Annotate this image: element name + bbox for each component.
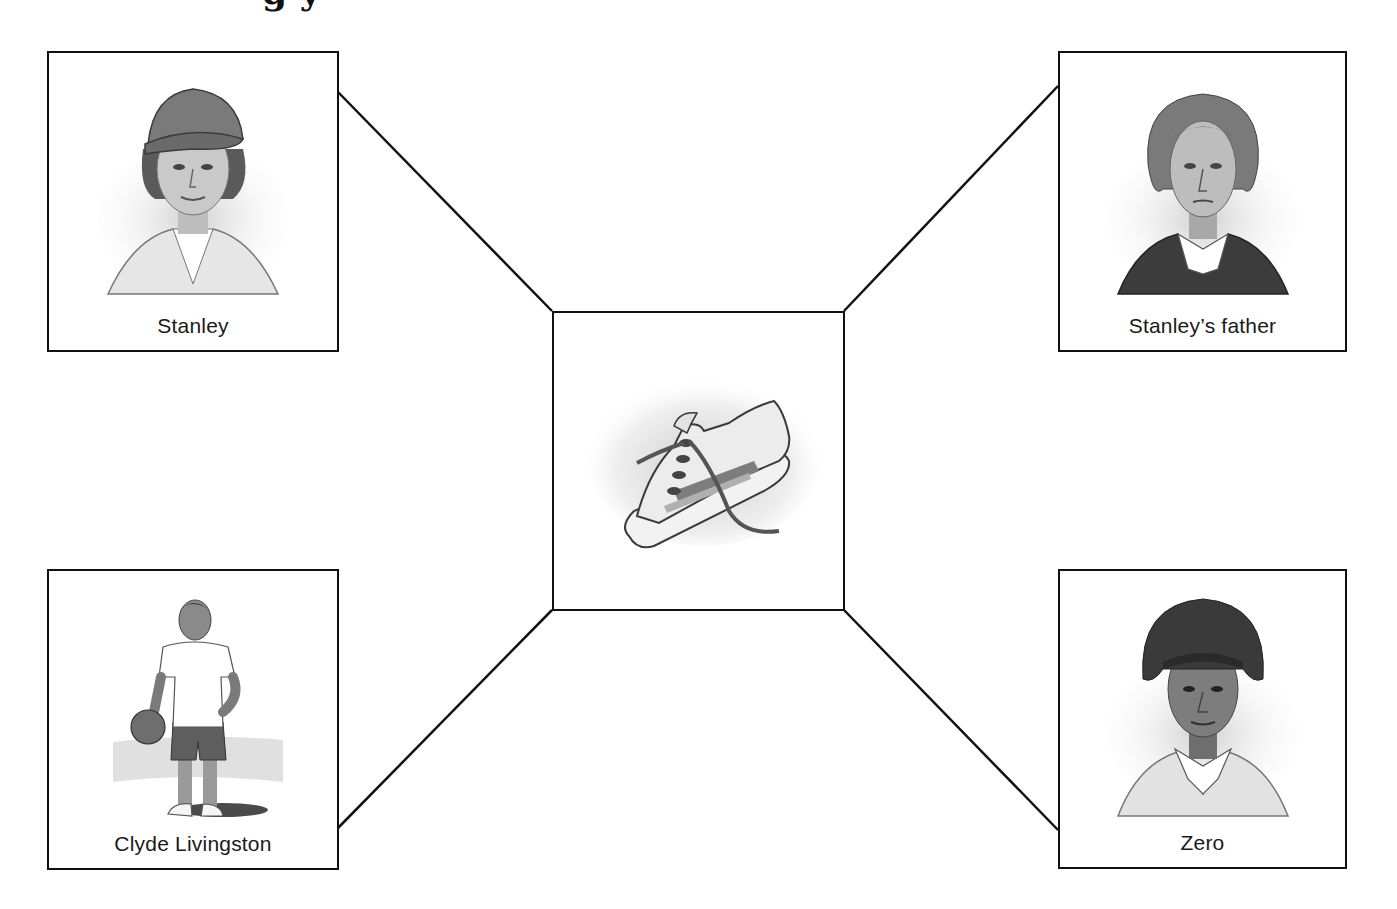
stanley-portrait-icon xyxy=(49,53,337,314)
stanleys-father-portrait-icon xyxy=(1060,53,1345,314)
character-label: Stanley’s father xyxy=(1060,314,1345,338)
heading-fragment: g y xyxy=(262,0,321,12)
clyde-livingston-portrait-icon xyxy=(49,571,337,832)
center-box xyxy=(552,311,845,611)
character-label: Stanley xyxy=(49,314,337,338)
character-box-stanley: Stanley xyxy=(47,51,339,352)
connector-zero xyxy=(844,610,1058,830)
character-box-zero: Zero xyxy=(1058,569,1347,869)
zero-portrait-icon xyxy=(1060,571,1345,831)
character-box-clyde-livingston: Clyde Livingston xyxy=(47,569,339,870)
character-label: Clyde Livingston xyxy=(49,832,337,856)
character-box-stanleys-father: Stanley’s father xyxy=(1058,51,1347,352)
connector-stanleys-father xyxy=(844,86,1058,311)
sneaker-icon xyxy=(554,313,843,609)
connector-stanley xyxy=(338,92,552,311)
connector-clyde-livingston xyxy=(338,610,552,828)
clipped-heading: g y xyxy=(0,0,1397,16)
character-label: Zero xyxy=(1060,831,1345,855)
